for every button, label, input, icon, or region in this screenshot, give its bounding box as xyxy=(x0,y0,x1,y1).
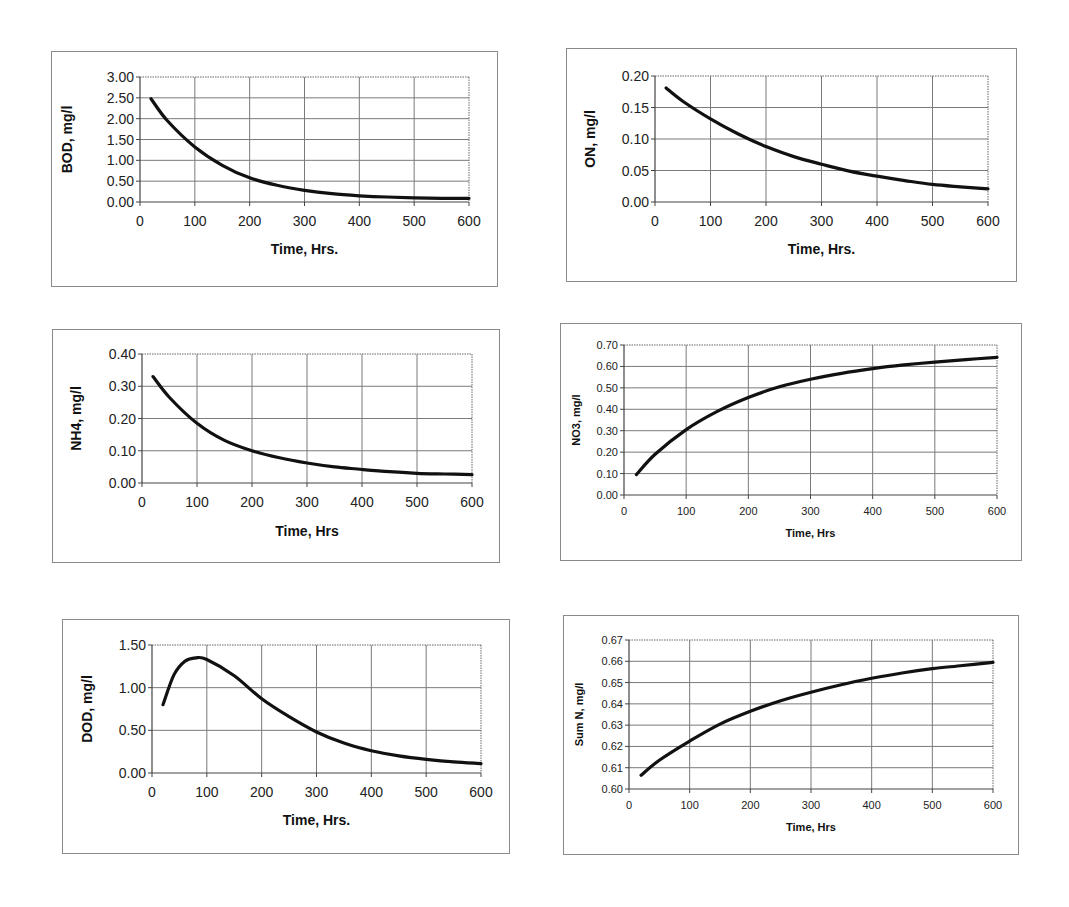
no3-y-tick-label: 0.50 xyxy=(597,382,618,394)
bod-y-tick-label: 2.00 xyxy=(107,111,134,127)
on-y-tick-label: 0.05 xyxy=(622,163,649,179)
on-y-tick-label: 0.15 xyxy=(622,100,649,116)
bod-y-axis-title: BOD, mg/l xyxy=(59,106,75,174)
dod-x-tick-label: 200 xyxy=(250,784,274,800)
on-x-tick-label: 500 xyxy=(921,213,945,229)
dod-y-tick-label: 1.00 xyxy=(119,680,146,696)
nh4-x-tick-label: 0 xyxy=(138,494,146,510)
sumn-x-tick-label: 200 xyxy=(741,799,759,811)
bod-x-tick-label: 100 xyxy=(183,213,207,229)
no3-x-tick-label: 0 xyxy=(621,505,627,517)
no3-series-line xyxy=(636,357,997,474)
no3-x-tick-label: 300 xyxy=(801,505,819,517)
no3-y-tick-label: 0.30 xyxy=(597,425,618,437)
no3-y-tick-label: 0.70 xyxy=(597,339,618,351)
sumn-y-tick-label: 0.66 xyxy=(602,655,623,667)
dod-y-tick-label: 0.00 xyxy=(119,765,146,781)
nh4-series-line xyxy=(153,377,472,475)
nh4-x-tick-label: 600 xyxy=(460,494,484,510)
no3-y-axis-title: NO3, mg/l xyxy=(570,394,582,445)
bod-x-tick-label: 300 xyxy=(293,213,317,229)
on-plot: 01002003004005006000.000.050.100.150.20T… xyxy=(582,68,1000,257)
nh4-x-tick-label: 500 xyxy=(405,494,429,510)
on-x-axis-title: Time, Hrs. xyxy=(788,241,855,257)
no3-y-tick-label: 0.60 xyxy=(597,360,618,372)
bod-x-tick-label: 0 xyxy=(136,213,144,229)
dod-y-axis-title: DOD, mg/l xyxy=(79,675,95,743)
sumn-series-line xyxy=(641,662,993,775)
nh4-x-tick-label: 400 xyxy=(350,494,374,510)
sumn-y-tick-label: 0.62 xyxy=(602,740,623,752)
dod-x-tick-label: 300 xyxy=(305,784,329,800)
on-gridlines xyxy=(655,76,988,202)
bod-x-tick-label: 400 xyxy=(348,213,372,229)
nh4-x-tick-label: 200 xyxy=(240,494,264,510)
no3-y-tick-label: 0.40 xyxy=(597,403,618,415)
dod-series-line xyxy=(163,657,481,763)
dod-gridlines xyxy=(152,645,481,773)
nh4-y-tick-label: 0.40 xyxy=(109,346,136,362)
dod-x-tick-label: 600 xyxy=(469,784,493,800)
on-y-axis-title: ON, mg/l xyxy=(582,110,598,168)
sumn-plot: 01002003004005006000.600.610.620.630.640… xyxy=(573,634,1002,833)
no3-plot: 01002003004005006000.000.100.200.300.400… xyxy=(570,339,1006,539)
sumn-y-tick-label: 0.65 xyxy=(602,677,623,689)
no3-y-tick-label: 0.10 xyxy=(597,468,618,480)
on-x-tick-label: 100 xyxy=(699,213,723,229)
no3-y-tick-label: 0.00 xyxy=(597,489,618,501)
on-x-tick-label: 600 xyxy=(976,213,1000,229)
dod-x-tick-label: 0 xyxy=(148,784,156,800)
nh4-y-tick-label: 0.30 xyxy=(109,378,136,394)
no3-x-tick-label: 200 xyxy=(739,505,757,517)
bod-y-tick-label: 1.00 xyxy=(107,152,134,168)
on-y-tick-label: 0.20 xyxy=(622,68,649,84)
sumn-x-tick-label: 0 xyxy=(626,799,632,811)
on-y-tick-label: 0.00 xyxy=(622,194,649,210)
dod-y-tick-label: 0.50 xyxy=(119,722,146,738)
bod-x-tick-label: 600 xyxy=(457,213,481,229)
sumn-x-tick-label: 500 xyxy=(923,799,941,811)
nh4-x-tick-label: 100 xyxy=(185,494,209,510)
bod-x-axis-title: Time, Hrs. xyxy=(271,241,338,257)
bod-y-tick-label: 2.50 xyxy=(107,90,134,106)
sumn-y-tick-label: 0.61 xyxy=(602,762,623,774)
no3-y-tick-label: 0.20 xyxy=(597,446,618,458)
dod-x-tick-label: 400 xyxy=(360,784,384,800)
no3-x-tick-label: 100 xyxy=(677,505,695,517)
nh4-y-tick-label: 0.00 xyxy=(109,475,136,491)
bod-x-tick-label: 200 xyxy=(238,213,262,229)
no3-x-tick-label: 600 xyxy=(988,505,1006,517)
bod-series-line xyxy=(151,99,469,199)
dod-x-tick-label: 500 xyxy=(414,784,438,800)
bod-y-tick-label: 3.00 xyxy=(107,69,134,85)
sumn-x-tick-label: 100 xyxy=(680,799,698,811)
no3-x-axis-title: Time, Hrs xyxy=(786,527,836,539)
no3-x-tick-label: 500 xyxy=(926,505,944,517)
sumn-y-tick-label: 0.60 xyxy=(602,783,623,795)
sumn-x-tick-label: 400 xyxy=(862,799,880,811)
no3-gridlines xyxy=(624,345,997,495)
bod-y-tick-label: 0.50 xyxy=(107,173,134,189)
on-x-tick-label: 200 xyxy=(754,213,778,229)
sumn-x-tick-label: 300 xyxy=(802,799,820,811)
nh4-y-tick-label: 0.10 xyxy=(109,443,136,459)
bod-x-tick-label: 500 xyxy=(402,213,426,229)
on-x-tick-label: 0 xyxy=(651,213,659,229)
bod-y-tick-label: 1.50 xyxy=(107,132,134,148)
sumn-gridlines xyxy=(629,640,993,789)
bod-gridlines xyxy=(140,77,469,202)
sumn-y-axis-title: Sum N, mg/l xyxy=(573,683,585,747)
chart-plots-canvas: 01002003004005006000.000.501.001.502.002… xyxy=(0,0,1069,907)
nh4-x-tick-label: 300 xyxy=(295,494,319,510)
on-x-tick-label: 400 xyxy=(865,213,889,229)
nh4-y-axis-title: NH4, mg/l xyxy=(68,386,84,451)
dod-y-tick-label: 1.50 xyxy=(119,637,146,653)
nh4-plot: 01002003004005006000.000.100.200.300.40T… xyxy=(68,346,484,539)
bod-plot: 01002003004005006000.000.501.001.502.002… xyxy=(59,69,481,257)
on-series-line xyxy=(666,88,988,189)
dod-plot: 01002003004005006000.000.501.001.50Time,… xyxy=(79,637,493,828)
sumn-y-tick-label: 0.67 xyxy=(602,634,623,646)
nh4-x-axis-title: Time, Hrs xyxy=(275,523,339,539)
no3-x-tick-label: 400 xyxy=(863,505,881,517)
dod-x-tick-label: 100 xyxy=(195,784,219,800)
